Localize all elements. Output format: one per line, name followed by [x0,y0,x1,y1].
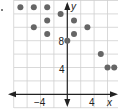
y-tick-label-4: 4 [59,64,65,75]
scatter-plot: y x −4 4 8 4 [0,0,118,109]
x-tick-label-4: 4 [89,97,95,108]
data-point [31,24,37,30]
x-axis-left-arrow-icon [8,91,16,97]
data-point [17,4,23,10]
data-point [44,4,50,10]
y-axis-up-arrow-icon [64,2,70,10]
y-tick-label-8: 8 [59,36,65,47]
y-axis-down-arrow-icon [64,99,70,107]
data-point [71,18,77,24]
data-point [58,11,64,17]
data-point [84,24,90,30]
data-point [98,51,104,57]
data-point [44,31,50,37]
data-point [44,18,50,24]
data-point [31,4,37,10]
data-point [111,65,117,71]
data-point [64,38,70,44]
data-point [71,31,77,37]
y-axis-label: y [70,1,77,12]
x-axis-label: x [106,97,113,108]
data-point [105,65,111,71]
x-tick-label-neg4: −4 [34,97,46,108]
